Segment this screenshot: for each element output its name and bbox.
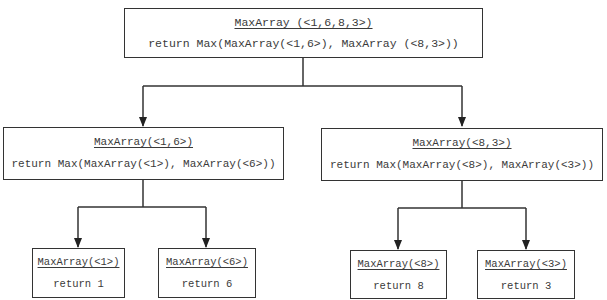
node-body: return 8 xyxy=(351,270,446,292)
node-title: MaxArray(<3>) xyxy=(485,258,567,270)
recursion-tree-diagram: MaxArray (<1,6,8,3>) return Max(MaxArray… xyxy=(0,0,607,300)
leaf-node-1: MaxArray(<1>) return 1 xyxy=(32,248,125,298)
left-node: MaxArray(<1,6>) return Max(MaxArray(<1>)… xyxy=(3,127,284,180)
node-body: return 6 xyxy=(159,268,255,290)
node-title: MaxArray(<8,3>) xyxy=(412,137,511,149)
arrowhead-icon xyxy=(522,240,530,250)
node-title: MaxArray(<1,6>) xyxy=(94,136,193,148)
leaf-node-6: MaxArray(<6>) return 6 xyxy=(158,248,256,298)
node-body: return Max(MaxArray(<1,6>), MaxArray (<8… xyxy=(125,29,482,50)
node-title: MaxArray(<1>) xyxy=(38,256,120,268)
arrowhead-icon xyxy=(139,117,147,127)
node-title: MaxArray(<6>) xyxy=(166,256,248,268)
node-body: return 3 xyxy=(478,270,574,292)
arrowhead-icon xyxy=(202,238,210,248)
arrowhead-icon xyxy=(394,240,402,250)
node-body: return 1 xyxy=(33,268,124,290)
node-body: return Max(MaxArray(<1>), MaxArray(<6>)) xyxy=(4,148,283,170)
node-body: return Max(MaxArray(<8>), MaxArray(<3>)) xyxy=(322,149,602,171)
arrowhead-icon xyxy=(74,238,82,248)
node-title: MaxArray (<1,6,8,3>) xyxy=(234,16,372,29)
leaf-node-3: MaxArray(<3>) return 3 xyxy=(477,250,575,299)
arrowhead-icon xyxy=(458,117,466,127)
root-node: MaxArray (<1,6,8,3>) return Max(MaxArray… xyxy=(124,8,483,58)
leaf-node-8: MaxArray(<8>) return 8 xyxy=(350,250,447,299)
node-title: MaxArray(<8>) xyxy=(358,258,440,270)
right-node: MaxArray(<8,3>) return Max(MaxArray(<8>)… xyxy=(321,128,603,181)
